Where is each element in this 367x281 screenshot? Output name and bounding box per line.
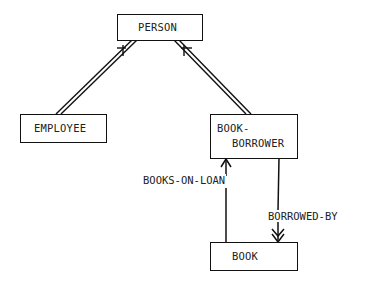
entity-book-borrower-label-line1: BOOK- bbox=[217, 122, 250, 134]
borrowed-by-label: BORROWED-BY bbox=[267, 210, 339, 222]
entity-book-borrower: BOOK- BORROWER bbox=[210, 114, 298, 159]
entity-employee-label: EMPLOYEE bbox=[34, 122, 86, 134]
entity-book-borrower-label-line2: BORROWER bbox=[232, 137, 284, 149]
entity-book-label: BOOK bbox=[232, 250, 258, 262]
entity-book: BOOK bbox=[210, 242, 298, 271]
books-on-loan-connector bbox=[221, 159, 231, 242]
entity-person-label: PERSON bbox=[138, 21, 177, 33]
bookborrower-to-person-isa-connector bbox=[174, 40, 251, 114]
books-on-loan-label: BOOKS-ON-LOAN bbox=[142, 174, 226, 186]
borrowed-by-connector bbox=[272, 158, 284, 242]
entity-person: PERSON bbox=[117, 14, 203, 41]
employee-to-person-isa-connector bbox=[56, 40, 137, 114]
diagram-canvas: PERSON EMPLOYEE BOOK- BORROWER BOOK BOOK… bbox=[0, 0, 367, 281]
entity-employee: EMPLOYEE bbox=[20, 114, 107, 143]
